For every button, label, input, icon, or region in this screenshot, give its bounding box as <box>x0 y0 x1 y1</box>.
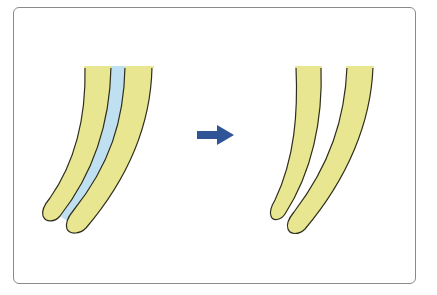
before-panel <box>42 66 154 233</box>
after-panel <box>270 66 374 234</box>
diagram-canvas <box>0 0 437 295</box>
arrow-right-icon <box>197 125 234 145</box>
